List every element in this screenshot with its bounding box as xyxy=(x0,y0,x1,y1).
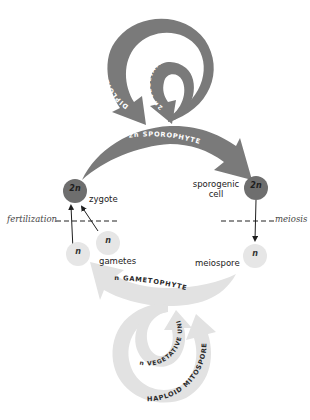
sporogenic-label-line1: sporogenic xyxy=(190,180,242,189)
gamete2-ploidy: n xyxy=(96,237,120,245)
life-cycle-diagram: DIPLOID MITOSPORE 2n VEGETATIVE UNIT 2n … xyxy=(0,0,310,420)
meiosis-label: meiosis xyxy=(275,215,307,224)
vegetative-unit-2n-arrow xyxy=(150,62,194,124)
meiospore-label: meiospore xyxy=(195,259,240,268)
gametes-label: gametes xyxy=(99,257,136,266)
zygote-label: zygote xyxy=(89,195,118,204)
sporogenic-ploidy: 2n xyxy=(244,182,268,190)
sporogenic-label-line2: cell xyxy=(190,190,242,199)
gamete2-to-zygote-arrow xyxy=(82,207,98,231)
sporogenic-to-meiospore-arrow xyxy=(255,200,256,240)
zygote-ploidy: 2n xyxy=(63,185,87,193)
meiospore-ploidy: n xyxy=(243,250,267,258)
fertilization-label: fertilization xyxy=(7,215,57,224)
gamete1-ploidy: n xyxy=(66,248,90,256)
